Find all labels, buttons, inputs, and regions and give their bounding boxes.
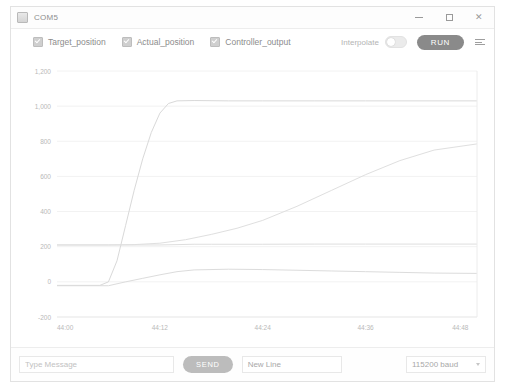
series-line-ramp-trace: [57, 144, 477, 245]
baud-rate-select[interactable]: 115200 baud: [406, 356, 486, 373]
legend-label-controller-output: Controller_output: [225, 37, 290, 47]
y-axis-tick-labels: 1,2001,0008006004002000-200: [35, 68, 52, 321]
checkbox-actual-position[interactable]: [122, 37, 132, 47]
bottom-toolbar: SEND New Line 115200 baud: [11, 347, 494, 381]
x-tick-label: 44:36: [357, 324, 374, 331]
minimize-icon[interactable]: [404, 7, 434, 28]
chart-series-lines: [57, 101, 477, 286]
y-tick-label: 800: [40, 138, 51, 145]
serial-monitor-icon: [17, 12, 28, 23]
maximize-icon[interactable]: [434, 7, 464, 28]
title-bar: COM5 ✕: [11, 7, 494, 29]
interpolate-toggle[interactable]: [385, 36, 407, 48]
line-ending-value: New Line: [248, 360, 281, 369]
checkbox-controller-output[interactable]: [210, 37, 220, 47]
message-input[interactable]: [19, 356, 174, 373]
x-tick-label: 44:48: [452, 324, 469, 331]
line-ending-select[interactable]: New Line: [242, 356, 342, 373]
window-title: COM5: [34, 13, 58, 22]
window-controls: ✕: [404, 7, 494, 28]
legend-item-controller-output[interactable]: Controller_output: [210, 37, 290, 47]
series-line-controller-output: [57, 269, 477, 286]
interpolate-label: Interpolate: [341, 38, 379, 47]
legend-label-actual-position: Actual_position: [137, 37, 195, 47]
legend-label-target-position: Target_position: [48, 37, 106, 47]
baud-rate-value: 115200 baud: [412, 360, 458, 369]
legend-item-actual-position[interactable]: Actual_position: [122, 37, 195, 47]
x-tick-label: 44:00: [57, 324, 74, 331]
y-tick-label: 400: [40, 208, 51, 215]
y-tick-label: -200: [38, 314, 51, 321]
toggle-knob: [387, 38, 395, 46]
x-tick-label: 44:24: [255, 324, 272, 331]
y-tick-label: 200: [40, 243, 51, 250]
menu-icon[interactable]: [475, 37, 486, 48]
chart-plot-area[interactable]: 1,2001,0008006004002000-200 44:0044:1244…: [11, 55, 494, 347]
toolbar-right-group: Interpolate RUN: [341, 35, 486, 50]
legend-item-target-position[interactable]: Target_position: [33, 37, 106, 47]
chart-svg: 1,2001,0008006004002000-200 44:0044:1244…: [11, 55, 494, 347]
x-tick-label: 44:12: [152, 324, 169, 331]
close-icon[interactable]: ✕: [464, 7, 494, 28]
run-button[interactable]: RUN: [417, 35, 464, 50]
y-tick-label: 1,000: [35, 103, 52, 110]
chart-toolbar: Target_position Actual_position Controll…: [11, 29, 494, 55]
x-axis-tick-labels: 44:0044:1244:2444:3644:48: [57, 324, 469, 331]
chevron-down-icon: [476, 363, 480, 366]
y-tick-label: 1,200: [35, 68, 52, 75]
grid-lines: [57, 71, 477, 317]
y-tick-label: 600: [40, 173, 51, 180]
y-tick-label: 0: [47, 278, 51, 285]
serial-monitor-window: COM5 ✕ Target_position Actual_position C…: [10, 6, 495, 382]
checkbox-target-position[interactable]: [33, 37, 43, 47]
send-button[interactable]: SEND: [183, 356, 233, 373]
series-line-actual-position: [57, 101, 477, 286]
